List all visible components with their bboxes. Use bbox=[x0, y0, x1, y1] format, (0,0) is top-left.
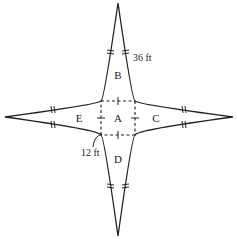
label-a: A bbox=[114, 112, 122, 124]
label-c: C bbox=[152, 112, 159, 124]
square-side-measurement: 12 ft bbox=[81, 147, 100, 158]
label-e: E bbox=[76, 112, 83, 124]
diagram-canvas: A B C D E 36 ft 12 ft bbox=[0, 0, 237, 239]
triangle-side-measurement: 36 ft bbox=[133, 52, 152, 63]
star-figure: A B C D E 36 ft 12 ft bbox=[0, 0, 237, 239]
label-b: B bbox=[114, 69, 121, 81]
triangle-b-outline bbox=[101, 3, 135, 101]
triangle-c-outline bbox=[135, 101, 233, 135]
triangle-d-outline bbox=[101, 135, 135, 236]
triangle-e-outline bbox=[5, 101, 101, 135]
label-d: D bbox=[114, 153, 122, 165]
square-side-pointer bbox=[93, 134, 102, 147]
